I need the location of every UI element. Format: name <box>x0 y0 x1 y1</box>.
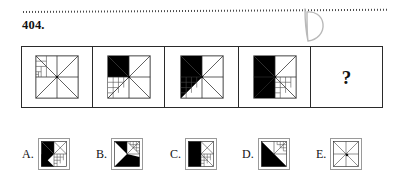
option-e-box[interactable] <box>330 138 362 170</box>
option-c-label: C. <box>170 148 181 160</box>
option-d-box[interactable] <box>258 138 290 170</box>
option-a-box[interactable] <box>38 138 70 170</box>
matrix-cell-5-answer[interactable]: ? <box>311 47 382 107</box>
answer-option-d[interactable]: D. <box>242 133 290 175</box>
option-a-label: A. <box>22 148 34 160</box>
answer-option-b[interactable]: B. <box>96 133 143 175</box>
matrix-cell-1[interactable] <box>22 47 93 107</box>
question-mark: ? <box>342 68 352 87</box>
answer-option-a[interactable]: A. <box>22 133 70 175</box>
answer-option-e[interactable]: E. <box>316 133 362 175</box>
matrix-cell-4[interactable] <box>239 47 311 107</box>
dotted-divider <box>22 9 388 13</box>
option-e-label: E. <box>316 148 326 160</box>
figure-option-b <box>114 141 140 167</box>
figure-cell-3 <box>180 55 224 99</box>
answer-options-row: A. <box>22 133 384 175</box>
figure-cell-2 <box>107 55 151 99</box>
figure-option-a <box>41 141 67 167</box>
handwritten-answer-mark <box>296 6 330 44</box>
matrix-sequence-table: ? <box>21 46 383 108</box>
question-number: 404. <box>22 19 45 32</box>
answer-option-c[interactable]: C. <box>170 133 217 175</box>
option-c-box[interactable] <box>185 138 217 170</box>
option-b-box[interactable] <box>111 138 143 170</box>
matrix-cell-3[interactable] <box>165 47 239 107</box>
figure-cell-1 <box>35 55 79 99</box>
option-b-label: B. <box>96 148 107 160</box>
option-d-label: D. <box>242 148 254 160</box>
matrix-cell-2[interactable] <box>93 47 165 107</box>
figure-option-e <box>333 141 359 167</box>
figure-option-c <box>188 141 214 167</box>
figure-option-d <box>261 141 287 167</box>
figure-cell-4 <box>253 55 297 99</box>
